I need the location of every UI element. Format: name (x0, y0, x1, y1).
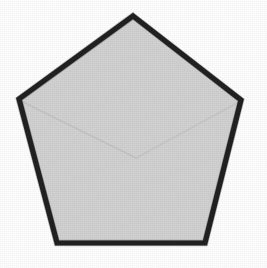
figure-canvas (0, 0, 267, 268)
pentagon-figure (0, 0, 267, 268)
